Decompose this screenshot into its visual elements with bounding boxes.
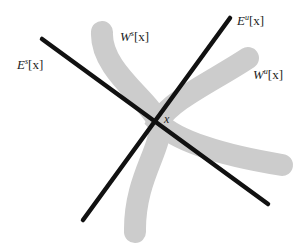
wu-base: W <box>253 67 264 82</box>
unstable-eigenspace-label: Eu[x] <box>237 14 264 27</box>
ws-arg: [x] <box>134 29 149 44</box>
eu-base: E <box>237 13 245 28</box>
fixed-point-label: x <box>164 113 169 125</box>
diagram-graphics <box>0 0 303 243</box>
es-base: E <box>17 57 25 72</box>
stable-eigenspace-label: Es[x] <box>17 58 43 71</box>
unstable-manifold-label: Wu[x] <box>253 68 283 81</box>
ws-base: W <box>120 29 131 44</box>
es-arg: [x] <box>28 57 43 72</box>
stable-manifold-label: Ws[x] <box>120 30 149 43</box>
stable-manifold-band <box>102 32 159 232</box>
wu-arg: [x] <box>268 67 283 82</box>
manifold-diagram: Es[x] Ws[x] Eu[x] Wu[x] x <box>0 0 303 243</box>
eu-arg: [x] <box>249 13 264 28</box>
point-x: x <box>164 112 169 126</box>
